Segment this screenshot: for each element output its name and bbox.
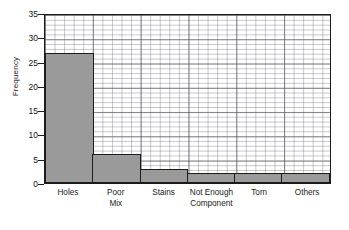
x-label-not-enough-component: Not Enough Component <box>187 188 235 209</box>
x-label-holes: Holes <box>44 188 92 209</box>
y-tick-label: 5 <box>8 155 38 165</box>
bar-poor-mix <box>92 154 141 183</box>
histogram-chart: Frequency 35 30 25 20 15 10 5 0 <box>0 0 349 230</box>
bar-series <box>45 15 330 183</box>
x-label-line: Component <box>187 199 235 210</box>
x-label-stains: Stains <box>140 188 188 209</box>
x-label-line: Mix <box>92 199 140 210</box>
y-tick-label: 30 <box>8 33 38 43</box>
bar-holes <box>45 53 94 183</box>
y-tick-label: 20 <box>8 82 38 92</box>
bar-torn <box>234 173 283 183</box>
x-label-torn: Torn <box>235 188 283 209</box>
x-axis-labels: Holes Poor Mix Stains Not Enough Compone… <box>44 188 331 209</box>
x-label-poor-mix: Poor Mix <box>92 188 140 209</box>
y-tick-label: 10 <box>8 130 38 140</box>
y-tick-label: 0 <box>8 179 38 189</box>
x-label-line: Torn <box>235 188 283 199</box>
y-tick-label: 35 <box>8 9 38 19</box>
y-tick-label: 15 <box>8 106 38 116</box>
x-label-line: Stains <box>140 188 188 199</box>
x-label-line: Holes <box>44 188 92 199</box>
x-label-others: Others <box>283 188 331 209</box>
bar-others <box>281 173 330 183</box>
x-label-line: Poor <box>92 188 140 199</box>
plot-area <box>44 14 331 184</box>
y-tick-mark <box>38 184 44 185</box>
x-label-line: Others <box>283 188 331 199</box>
bar-stains <box>140 169 189 183</box>
x-label-line: Not Enough <box>187 188 235 199</box>
bar-not-enough-component <box>187 173 236 183</box>
y-tick-label: 25 <box>8 58 38 68</box>
